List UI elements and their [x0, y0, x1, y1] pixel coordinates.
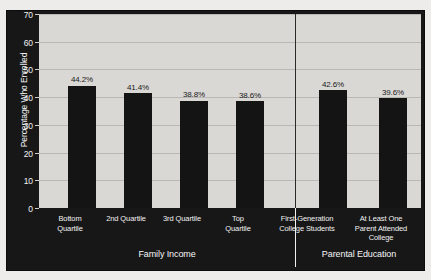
- gridline-10: [39, 180, 421, 181]
- value-label-top-quartile: 38.6%: [228, 91, 272, 100]
- value-label-parent-attended: 39.6%: [371, 88, 415, 97]
- y-tick-label-50: 50: [15, 65, 33, 75]
- gridline-50: [39, 69, 421, 70]
- chart-panel: Percentage Who Enrolled 70 60 50 40 30 2…: [7, 11, 424, 270]
- value-label-2nd-quartile: 41.4%: [116, 83, 160, 92]
- gridline-70: [39, 14, 421, 15]
- y-tick-label-60: 60: [15, 38, 33, 48]
- gridline-60: [39, 42, 421, 43]
- group-divider-line-labels: [295, 208, 296, 267]
- bar-first-generation: [319, 90, 347, 208]
- y-tick-mark-0: [35, 208, 39, 209]
- bar-3rd-quartile: [180, 101, 208, 209]
- y-tick-label-40: 40: [15, 93, 33, 103]
- chart-figure: Percentage Who Enrolled 70 60 50 40 30 2…: [0, 0, 431, 280]
- y-tick-label-10: 10: [15, 176, 33, 186]
- x-label-first-generation: First-Generation College Students: [271, 214, 343, 233]
- y-tick-label-30: 30: [15, 121, 33, 131]
- group-divider-line: [295, 14, 296, 208]
- y-tick-label-70: 70: [15, 10, 33, 20]
- y-tick-label-0: 0: [15, 204, 33, 214]
- x-label-3rd-quartile: 3rd Quartile: [155, 214, 209, 224]
- value-label-bottom-quartile: 44.2%: [60, 75, 104, 84]
- bar-parent-attended: [379, 98, 407, 208]
- gridline-30: [39, 125, 421, 126]
- bar-top-quartile: [236, 101, 264, 208]
- x-label-parent-attended: At Least One Parent Attended College: [343, 214, 419, 243]
- bar-2nd-quartile: [124, 93, 152, 208]
- value-label-first-generation: 42.6%: [311, 80, 355, 89]
- group-label-family-income: Family Income: [39, 249, 295, 259]
- gridline-20: [39, 153, 421, 154]
- x-label-2nd-quartile: 2nd Quartile: [99, 214, 153, 224]
- bar-bottom-quartile: [68, 86, 96, 209]
- y-tick-label-20: 20: [15, 149, 33, 159]
- group-label-parental-education: Parental Education: [297, 249, 421, 259]
- value-label-3rd-quartile: 38.8%: [172, 90, 216, 99]
- x-label-bottom-quartile: Bottom Quartile: [43, 214, 97, 233]
- x-label-top-quartile: Top Quartile: [211, 214, 265, 233]
- plot-area: 44.2% 41.4% 38.8% 38.6% 42.6% 39.6%: [39, 14, 421, 208]
